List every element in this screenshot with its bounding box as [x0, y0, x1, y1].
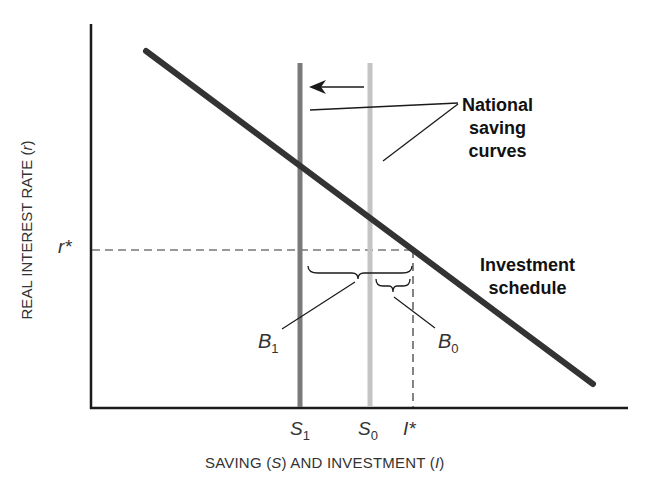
y-axis-var: r	[18, 146, 35, 151]
callout-line2: saving	[462, 117, 533, 140]
i-star-tick-label: I*	[403, 418, 416, 440]
b1-label: B1	[258, 330, 279, 356]
b1-sub: 1	[271, 341, 278, 356]
callout-line-s1	[310, 103, 458, 110]
b0-label: B0	[438, 330, 459, 356]
b1-base: B	[258, 330, 271, 352]
s1-sub: 1	[303, 428, 310, 443]
s1-tick-label: S1	[290, 418, 310, 443]
shift-left-arrow-icon	[309, 80, 364, 94]
leader-b0	[394, 297, 435, 328]
x-axis-var1: S	[271, 454, 281, 471]
investment-schedule-label: Investment schedule	[480, 254, 575, 300]
s0-base: S	[358, 418, 371, 439]
b0-base: B	[438, 330, 451, 352]
investment-label-line2: schedule	[480, 277, 575, 300]
callout-line1: National	[462, 94, 533, 117]
x-axis-label-prefix: SAVING (	[205, 454, 271, 471]
callout-line3: curves	[462, 140, 533, 163]
s0-sub: 0	[371, 428, 378, 443]
x-axis-label-mid: ) AND INVESTMENT (	[282, 454, 435, 471]
investment-label-line1: Investment	[480, 254, 575, 277]
leader-b1	[282, 282, 355, 329]
y-axis-label: REAL INTEREST RATE (r)	[18, 141, 35, 320]
diagram-canvas	[0, 0, 655, 497]
brace-b0	[376, 279, 410, 292]
brace-b1	[308, 266, 412, 279]
b0-sub: 0	[451, 341, 458, 356]
y-axis-label-suffix: )	[18, 141, 35, 146]
x-axis-label: SAVING (S) AND INVESTMENT (I)	[205, 454, 444, 471]
r-star-label: r*	[58, 236, 72, 258]
s0-tick-label: S0	[358, 418, 378, 443]
national-saving-curves-label: National saving curves	[462, 94, 533, 163]
callout-line-s0	[383, 104, 458, 161]
s1-base: S	[290, 418, 303, 439]
y-axis-label-text: REAL INTEREST RATE (	[18, 151, 35, 320]
x-axis-label-suffix: )	[439, 454, 444, 471]
